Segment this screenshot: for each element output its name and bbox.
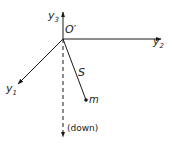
coordinate-diagram: y3 y2 y1 O′ S m (down) bbox=[0, 0, 172, 146]
y2-label: y2 bbox=[152, 35, 165, 50]
origin-label: O′ bbox=[65, 23, 77, 36]
y1-axis bbox=[18, 39, 63, 84]
mass-label: m bbox=[89, 94, 99, 105]
mass-point bbox=[84, 98, 88, 102]
y3-label: y3 bbox=[47, 9, 59, 24]
string-label: S bbox=[78, 66, 85, 79]
y1-label: y1 bbox=[5, 82, 17, 97]
down-label: (down) bbox=[67, 123, 98, 133]
